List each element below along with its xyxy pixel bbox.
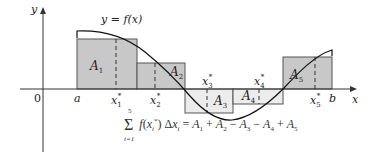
rect-a1 [77, 39, 137, 89]
x-axis-arrow-icon [350, 86, 357, 92]
curve-label: y = f(x) [100, 13, 142, 26]
y-axis-arrow-icon [40, 7, 46, 14]
x1-star-label: x1* [111, 92, 122, 109]
sigma-symbol: Σ5i=1 [124, 116, 133, 134]
x4-star-label: x4* [254, 73, 265, 90]
b-label: b [329, 92, 336, 105]
x2-star-label: x2* [150, 92, 161, 109]
a-label: a [74, 92, 81, 105]
riemann-sum-formula: Σ5i=1 f(xi*) Δxi = A1 + A2 − A3 − A4 + A… [124, 116, 298, 134]
x5-star-label: x5* [310, 92, 321, 109]
origin-label: 0 [34, 92, 41, 105]
x3-star-label: x3* [202, 73, 213, 90]
y-axis-label: y [30, 3, 38, 16]
x-axis-label: x [352, 93, 359, 106]
